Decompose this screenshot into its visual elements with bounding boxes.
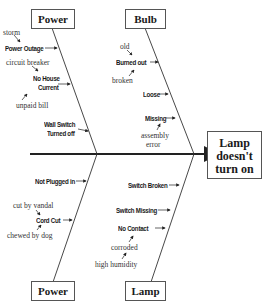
sub-cause-circuit-breaker: circuit breaker [6, 58, 50, 67]
category-box-power-top: Power [31, 9, 75, 29]
cause-switch-missing: Switch Missing [116, 206, 157, 215]
category-box-power-bottom: Power [31, 281, 75, 301]
sub-cause-unpaid-bill: unpaid bill [16, 101, 48, 110]
sub-cause-error: error [146, 140, 161, 149]
sub-cause-assembly: assembly [141, 131, 169, 140]
cause-no-house-current-1: No House [33, 74, 60, 83]
effect-line-3: turn on [208, 163, 261, 176]
cause-power-outage: Power Outage [5, 44, 43, 53]
cause-loose: Loose [143, 90, 160, 99]
cause-wall-switch-1: Wall Switch [44, 120, 75, 129]
cause-missing: Missing [145, 114, 166, 123]
cause-cord-cut: Cord Cut [36, 216, 60, 225]
effect-box: Lamp doesn't turn on [207, 131, 262, 179]
sub-cause-storm: storm [3, 28, 20, 37]
cause-burned-out: Burned out [116, 58, 146, 67]
cause-no-contact: No Contact [118, 224, 148, 233]
sub-cause-chewed-by-dog: chewed by dog [7, 231, 52, 240]
category-box-lamp: Lamp [125, 281, 166, 301]
sub-cause-corroded: corroded [111, 243, 138, 252]
sub-cause-high-humidity: high humidity [95, 260, 137, 269]
sub-cause-broken: broken [112, 76, 133, 85]
cause-wall-switch-2: Turned off [47, 129, 74, 138]
sub-cause-old: old [120, 42, 130, 51]
category-box-bulb: Bulb [125, 9, 166, 29]
cause-not-plugged-in: Not Plugged in [35, 177, 75, 186]
cause-switch-broken: Switch Broken [128, 181, 168, 190]
sub-cause-cut-by-vandal: cut by vandal [13, 201, 53, 210]
cause-no-house-current-2: Current [38, 83, 59, 92]
